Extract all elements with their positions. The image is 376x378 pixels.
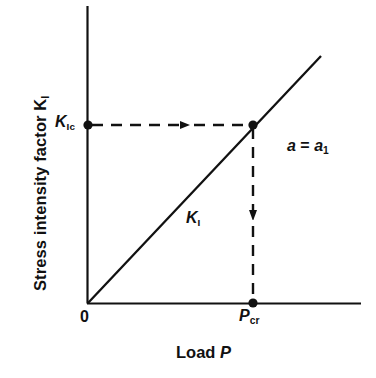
origin-label: 0 xyxy=(80,309,89,325)
stress-intensity-plot xyxy=(0,0,376,378)
y-axis-title-subscript: I xyxy=(39,95,51,98)
crack-annotation-rhs: a xyxy=(314,137,323,154)
x-tick-label-p-cr: Pcr xyxy=(239,308,260,324)
curve-label-subscript: I xyxy=(198,217,201,228)
p-cr-subscript: cr xyxy=(250,315,260,326)
figure-container: Stress intensity factor KI Load P KIc 0 … xyxy=(0,0,376,378)
p-cr-symbol: P xyxy=(239,307,250,324)
point-k-ic-on-axis xyxy=(83,120,92,129)
y-axis-title: Stress intensity factor KI xyxy=(32,95,49,291)
point-critical xyxy=(248,120,257,129)
curve-label-k-i: KI xyxy=(186,210,201,226)
y-tick-label-k-ic: KIc xyxy=(55,114,75,130)
k-ic-subscript: Ic xyxy=(67,121,76,132)
crack-annotation-lhs: a xyxy=(287,137,296,154)
x-axis-title: Load P xyxy=(176,344,231,361)
crack-length-annotation: a = a1 xyxy=(287,138,329,154)
x-axis-title-text: Load xyxy=(176,343,220,361)
y-axis-title-text: Stress intensity factor K xyxy=(31,99,49,291)
k-i-curve xyxy=(88,56,321,303)
curve-label-symbol: K xyxy=(186,209,198,226)
crack-annotation-equals: = xyxy=(296,137,314,154)
crack-annotation-subscript: 1 xyxy=(323,145,329,156)
x-axis-title-variable: P xyxy=(220,343,231,361)
k-ic-symbol: K xyxy=(55,113,67,130)
